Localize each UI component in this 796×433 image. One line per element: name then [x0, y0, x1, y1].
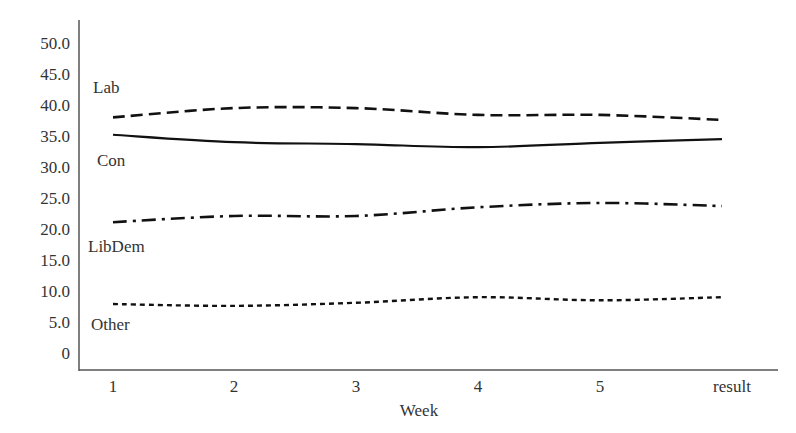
- series-line-con: [113, 135, 722, 147]
- x-axis-title: Week: [400, 401, 439, 420]
- x-tick-label: 4: [474, 377, 483, 396]
- series-line-lab: [113, 107, 722, 120]
- y-tick-label: 25.0: [40, 189, 70, 208]
- y-tick-labels: 50.045.040.035.030.025.020.015.010.05.00: [40, 34, 70, 363]
- x-tick-label: 5: [596, 377, 605, 396]
- x-tick-label: result: [713, 377, 751, 396]
- series-line-other: [113, 297, 722, 306]
- y-tick-label: 30.0: [40, 158, 70, 177]
- y-tick-label: 5.0: [49, 313, 70, 332]
- x-tick-label: 2: [230, 377, 239, 396]
- x-tick-labels: 12345result: [109, 377, 751, 396]
- y-tick-label: 40.0: [40, 96, 70, 115]
- y-tick-label: 0: [62, 344, 71, 363]
- y-tick-label: 15.0: [40, 251, 70, 270]
- line-chart: 50.045.040.035.030.025.020.015.010.05.00…: [0, 0, 796, 433]
- x-tick-label: 3: [352, 377, 361, 396]
- series-label-con: Con: [97, 151, 126, 170]
- y-tick-label: 20.0: [40, 220, 70, 239]
- series-label-other: Other: [91, 315, 130, 334]
- series-label-lab: Lab: [93, 78, 119, 97]
- x-tick-label: 1: [109, 377, 118, 396]
- y-tick-label: 10.0: [40, 282, 70, 301]
- y-tick-label: 45.0: [40, 65, 70, 84]
- series-label-libdem: LibDem: [88, 237, 145, 256]
- series-line-libdem: [113, 203, 722, 222]
- y-tick-label: 50.0: [40, 34, 70, 53]
- series-lines: [113, 107, 722, 306]
- y-tick-label: 35.0: [40, 127, 70, 146]
